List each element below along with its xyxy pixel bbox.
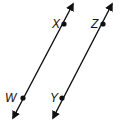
label-x: X bbox=[51, 17, 61, 31]
label-w: W bbox=[5, 91, 18, 105]
line-wx bbox=[13, 4, 73, 118]
line-yz bbox=[53, 4, 112, 118]
parallel-lines-diagram: X W Z Y bbox=[0, 0, 120, 125]
point-z bbox=[100, 21, 105, 26]
label-z: Z bbox=[90, 17, 99, 31]
point-y bbox=[59, 95, 64, 100]
point-w bbox=[20, 95, 25, 100]
point-x bbox=[61, 21, 66, 26]
label-y: Y bbox=[50, 91, 59, 105]
